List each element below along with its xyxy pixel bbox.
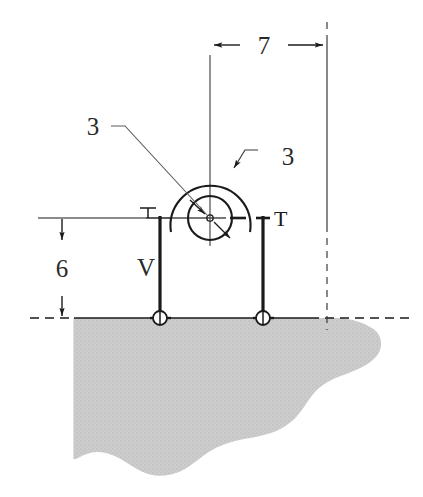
- width-dimension: 7: [214, 32, 323, 59]
- radius-right-leader-path: [234, 150, 258, 168]
- frame-posts: [160, 216, 263, 316]
- member-v-label: V: [137, 254, 155, 281]
- technical-drawing-canvas: 7 6 T 3 3: [0, 0, 423, 497]
- radius-right-label: 3: [282, 143, 295, 170]
- radius-left-label: 3: [87, 113, 100, 140]
- section-label-left-group: T: [141, 185, 155, 210]
- section-label-right: T: [274, 206, 288, 231]
- figure-root: 7 6 T 3 3: [0, 0, 423, 497]
- width-dimension-value: 7: [258, 32, 271, 59]
- ground-region: [74, 318, 381, 476]
- height-dimension-value: 6: [56, 255, 69, 282]
- radius-right-leader: 3: [234, 143, 294, 170]
- ground-fill: [74, 318, 381, 476]
- member-v-label-group: V: [137, 254, 155, 281]
- radius-arrow-upper-left: [190, 200, 205, 214]
